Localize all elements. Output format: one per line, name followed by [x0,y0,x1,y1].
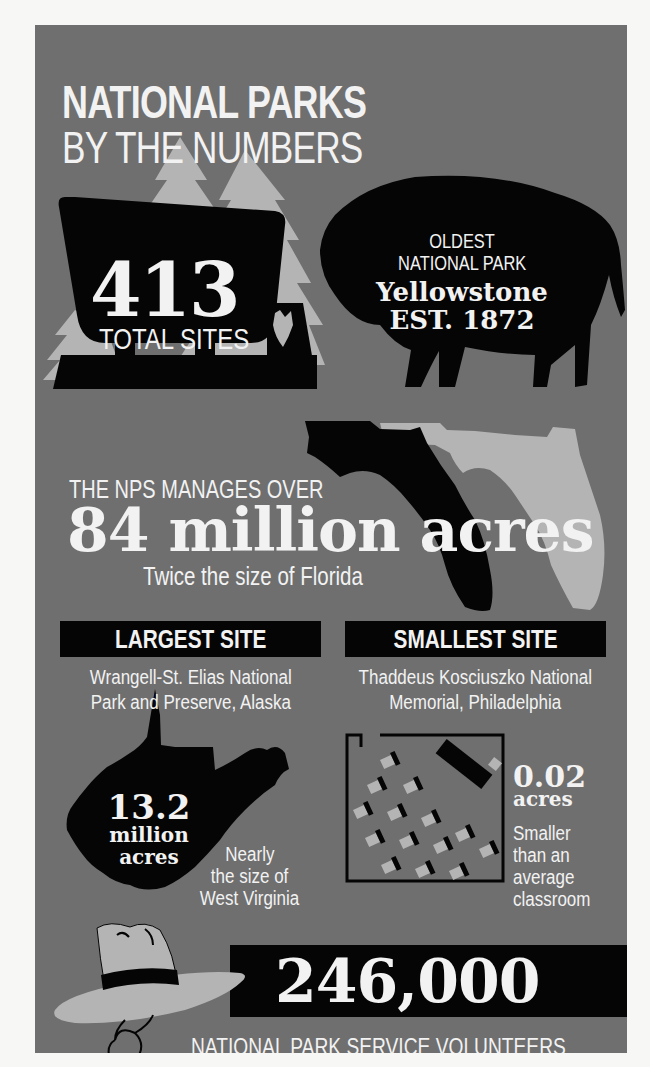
ranger-hat-layer [35,25,627,1053]
infographic-panel: NATIONAL PARKS BY THE NUMBERS 413 TOTAL … [35,25,627,1053]
volunteers-label: NATIONAL PARK SERVICE VOLUNTEERS [191,1033,566,1053]
volunteers-number: 246,000 [275,945,539,1017]
